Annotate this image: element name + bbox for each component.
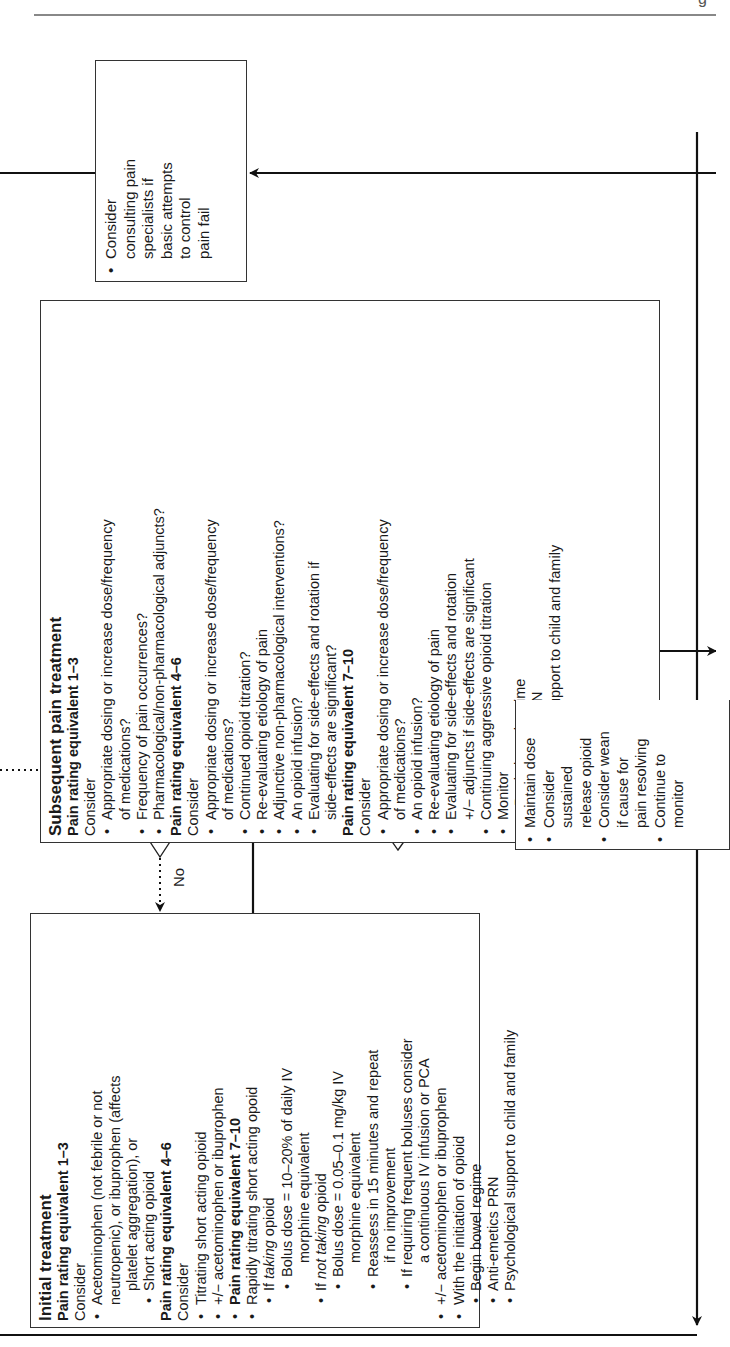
initial-r3-bolus1-cont: morphine equivalent — [296, 920, 313, 1321]
initial-r3-bolus1: Bolus dose = 10–20% of daily IV — [279, 920, 296, 1321]
initial-r2-consider: Consider — [175, 920, 192, 1321]
subsequent-item: Appropriate dosing or increase dose/freq… — [99, 307, 116, 836]
initial-r1-consider: Consider — [72, 920, 89, 1321]
initial-r3-if-taking: If taking opioid — [261, 920, 278, 1321]
subsequent-r2-heading: Pain rating equivalent 4–6 — [168, 307, 185, 836]
initial-r3-frequent: If requiring frequent boluses consider — [399, 920, 416, 1321]
subsequent-item: Appropriate dosing or increase dose/freq… — [203, 307, 220, 836]
consult-line: pain fail — [195, 67, 214, 275]
maintain-line: release opioid — [577, 705, 596, 844]
subsequent-r3-consider: Consider — [357, 307, 374, 836]
consult-line: basic attempts — [158, 67, 177, 275]
subsequent-item-cont: of medications? — [220, 307, 237, 836]
initial-title: Initial treatment — [36, 920, 55, 1321]
maintain-line: if cause for — [614, 705, 633, 844]
initial-r3-bolus2-cont: morphine equivalent — [347, 920, 364, 1321]
maintain-dose-box: Maintain dose Consider sustained release… — [515, 700, 730, 850]
initial-r3-reassess-cont: if no improvement — [382, 920, 399, 1321]
consult-specialists-box: Consider consulting pain specialists if … — [95, 60, 247, 282]
maintain-item: Consider wean — [595, 705, 614, 844]
initial-r2-item: Titrating short acting opioid — [193, 920, 210, 1321]
initial-r3-item: Rapidly titrating short acting opoid — [244, 920, 261, 1321]
maintain-line: monitor — [669, 705, 688, 844]
maintain-item: Consider — [540, 705, 559, 844]
subsequent-item: Evaluating for side-effects and rotation… — [306, 307, 323, 836]
subsequent-item: An opioid infusion? — [289, 307, 306, 836]
initial-r1-heading: Pain rating equivalent 1–3 — [55, 920, 72, 1321]
maintain-line: pain resolving — [632, 705, 651, 844]
subsequent-item: Appropriate dosing or increase dose/freq… — [375, 307, 392, 836]
initial-bowel: Begin bowel regime — [468, 920, 485, 1321]
initial-r1-item: Acetominophen (not febrile or not — [89, 920, 106, 1321]
subsequent-title: Subsequent pain treatment — [46, 307, 65, 836]
subsequent-item-cont: of medications? — [392, 307, 409, 836]
subsequent-r3-heading: Pain rating equivalent 7–10 — [340, 307, 357, 836]
initial-r2-item: +/− acetominophen or ibuprophen — [210, 920, 227, 1321]
initial-treatment-box: Initial treatment Pain rating equivalent… — [30, 913, 480, 1328]
consult-line: to control — [176, 67, 195, 275]
initial-r1-item-cont: neutropenic), or ibuprophen (affects — [107, 920, 124, 1321]
subsequent-item: Re-evaluating etiology of pain — [426, 307, 443, 836]
consult-line: specialists if — [139, 67, 158, 275]
initial-r3-bolus2: Bolus dose = 0.05–0.1 mg/kg IV — [330, 920, 347, 1321]
initial-r2-heading: Pain rating equivalent 4–6 — [158, 920, 175, 1321]
consult-line: consulting pain — [121, 67, 140, 275]
initial-r3-heading-item: Pain rating equivalent 7–10 — [227, 920, 244, 1321]
subsequent-item: Adjunctive non-pharmacological intervent… — [271, 307, 288, 836]
subsequent-item: Evaluating for side-effects and rotation — [443, 307, 460, 836]
subsequent-item: Continued opioid titration? — [237, 307, 254, 836]
subsequent-item-cont: of medications? — [117, 307, 134, 836]
subsequent-r1-consider: Consider — [82, 307, 99, 836]
initial-r3-frequent-cont: a continuous IV infusion or PCA — [416, 920, 433, 1321]
consult-item: Consider — [102, 67, 121, 275]
maintain-line: sustained — [558, 705, 577, 844]
initial-r3-adjunct: +/− acetominophen or ibuprophen — [433, 920, 450, 1321]
initial-r3-reassess: Reassess in 15 minutes and repeat — [365, 920, 382, 1321]
initial-r3-with-init: With the initiation of opioid — [451, 920, 468, 1321]
subsequent-r1-heading: Pain rating equivalent 1–3 — [65, 307, 82, 836]
already-no-label: No — [170, 868, 187, 887]
subsequent-r2-consider: Consider — [185, 307, 202, 836]
subsequent-item: Re-evaluating etiology of pain — [254, 307, 271, 836]
initial-r1-item: Short acting opioid — [141, 920, 158, 1321]
maintain-item: Continue to — [651, 705, 670, 844]
initial-r1-item-cont: platelet aggregation), or — [124, 920, 141, 1321]
subsequent-item: Frequency of pain occurrences? — [134, 307, 151, 836]
initial-psych: Psychological support to child and famil… — [502, 920, 519, 1321]
subsequent-item: Continuing aggressive opioid titration — [478, 307, 495, 836]
subsequent-item-cont: +/− adjuncts if side-effects are signifi… — [461, 307, 478, 836]
maintain-item: Maintain dose — [521, 705, 540, 844]
subsequent-item: An opioid infusion? — [409, 307, 426, 836]
subsequent-item: Pharmacological/non-pharmacological adju… — [151, 307, 168, 836]
subsequent-item-cont: side-effects are significant? — [323, 307, 340, 836]
initial-antiemetics: Anti-emetics PRN — [485, 920, 502, 1321]
subsequent-item: Monitor — [495, 307, 512, 836]
initial-r3-if-not-taking: If not taking opioid — [313, 920, 330, 1321]
